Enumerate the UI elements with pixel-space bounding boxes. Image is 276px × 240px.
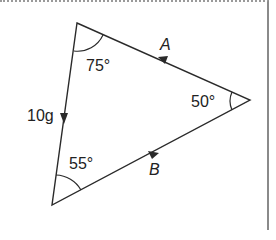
arrow-icon-weight [60, 113, 68, 124]
angle-arc-top [74, 35, 103, 51]
angle-label-bottom: 55° [69, 156, 93, 172]
angle-label-right: 50° [191, 94, 215, 110]
side-label-weight: 10g [27, 108, 54, 124]
angle-arc-bottom [56, 175, 81, 190]
side-label-B: B [149, 162, 160, 178]
side-label-A: A [160, 37, 171, 53]
arrow-icon-B [148, 151, 159, 159]
angle-arc-right [230, 92, 232, 110]
angle-label-top: 75° [86, 58, 110, 74]
